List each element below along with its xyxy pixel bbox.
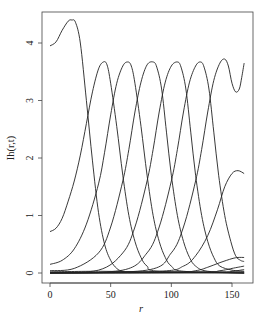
x-axis: 050100150 [48, 283, 240, 300]
y-tick-label: 3 [24, 98, 35, 103]
y-tick-label: 1 [24, 213, 35, 218]
x-tick-label: 100 [164, 289, 179, 300]
y-axis: 01234 [24, 41, 42, 276]
x-tick-label: 150 [225, 289, 240, 300]
plot-frame [42, 12, 253, 283]
x-tick-label: 0 [48, 289, 53, 300]
line-chart: 050100150 01234 r Ih(r,t) [0, 0, 262, 319]
series-line-t8 [50, 171, 244, 273]
y-axis-title: Ih(r,t) [5, 135, 17, 160]
x-tick-label: 50 [106, 289, 116, 300]
y-tick-label: 0 [24, 271, 35, 276]
y-tick-label: 2 [24, 156, 35, 161]
x-axis-title: r [139, 303, 144, 314]
series-line-t3 [50, 62, 244, 273]
y-tick-label: 4 [24, 41, 35, 46]
series-lines [50, 20, 244, 273]
